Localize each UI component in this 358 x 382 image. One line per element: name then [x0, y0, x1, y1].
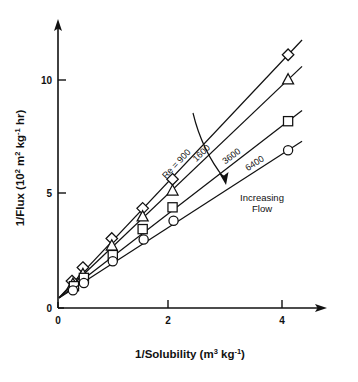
series-line-1: [59, 66, 302, 297]
x-ticklabel-4: 4: [279, 315, 285, 326]
y-axis-title-sup3: -1: [13, 128, 22, 135]
x-ticklabel-2: 2: [165, 315, 171, 326]
data-point-circle: [79, 278, 88, 287]
y-axis-title-mid: m: [14, 156, 26, 169]
data-point-square: [283, 117, 292, 126]
data-point-circle: [139, 235, 148, 244]
y-ticks-group: 0 5 10: [41, 75, 66, 314]
x-axis-title: 1/Solubility (m3 kg-1): [135, 347, 245, 360]
series-line-0: [59, 40, 302, 298]
y-ticklabel-0: 0: [46, 303, 52, 314]
series-layer: [59, 40, 302, 298]
x-axis-title-sup2: -1: [234, 347, 241, 356]
x-ticklabel-0: 0: [55, 315, 61, 326]
x-ticks-group: 0 2 4: [55, 300, 285, 326]
chart-container: 0 5 10 0 2 4 1/Solubility (m3 kg-1) 1/Fl…: [0, 0, 358, 382]
data-point-circle: [169, 216, 178, 225]
y-ticklabel-10: 10: [41, 75, 53, 86]
series-label-3: 6400: [243, 154, 265, 173]
increasing-flow-annotation: Increasing Flow: [193, 113, 284, 214]
y-axis-title-base: 1/Flux (10: [14, 173, 26, 226]
x-axis-title-mid: kg: [218, 348, 235, 360]
series-label-2: 3600: [220, 146, 242, 166]
axes-group: [54, 19, 327, 312]
increasing-flow-label-line2: Flow: [252, 203, 272, 214]
data-point-circle: [68, 286, 77, 295]
increasing-flow-arrowhead: [219, 172, 229, 185]
data-point-square: [138, 225, 147, 234]
series-label-1: 1600: [191, 143, 212, 164]
series-1: [59, 66, 302, 297]
data-point-circle: [108, 257, 117, 266]
increasing-flow-label-line1: Increasing: [240, 192, 284, 203]
data-point-square: [168, 203, 177, 212]
y-ticklabel-5: 5: [46, 188, 52, 199]
chart-svg: 0 5 10 0 2 4 1/Solubility (m3 kg-1) 1/Fl…: [0, 0, 358, 382]
x-axis-title-tail: ): [241, 348, 245, 360]
y-axis-title-tail: hr): [14, 110, 26, 129]
y-axis-title: 1/Flux (102 m2 kg-1 hr): [13, 110, 26, 227]
y-axis-title-mid2: kg: [14, 135, 26, 152]
data-point-circle: [283, 146, 292, 155]
series-0: [59, 40, 302, 298]
x-axis-title-base: 1/Solubility (m: [135, 348, 214, 360]
